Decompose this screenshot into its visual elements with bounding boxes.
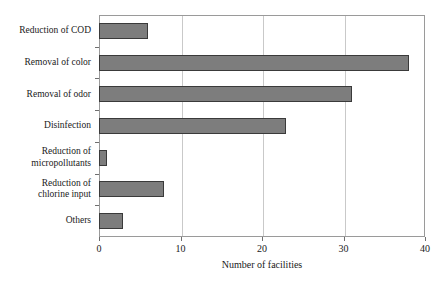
y-axis-category-labels: Reduction of CODRemoval of colorRemoval …	[0, 15, 95, 237]
y-axis-label: Removal of odor	[0, 89, 91, 101]
bars-layer	[99, 15, 425, 237]
x-tick-label-40: 40	[405, 243, 445, 255]
bar-row	[99, 47, 425, 79]
bar	[99, 118, 286, 134]
bar	[99, 55, 409, 71]
bar-row	[99, 15, 425, 47]
x-tick-label-20: 20	[242, 243, 282, 255]
y-axis-label: Disinfection	[0, 120, 91, 132]
bar-row	[99, 174, 425, 206]
bar-row	[99, 110, 425, 142]
bar	[99, 150, 107, 166]
x-tick-0	[99, 237, 100, 241]
y-tick	[95, 205, 99, 206]
bar-row	[99, 142, 425, 174]
x-axis-title: Number of facilities	[99, 259, 425, 270]
bar	[99, 23, 148, 39]
y-axis-label: Reduction of COD	[0, 25, 91, 37]
bar-chart: Reduction of CODRemoval of colorRemoval …	[0, 0, 445, 284]
x-tick-30	[344, 237, 345, 241]
x-tick-label-10: 10	[161, 243, 201, 255]
y-tick	[95, 110, 99, 111]
y-tick	[95, 78, 99, 79]
y-axis-label: Reduction of chlorine input	[0, 178, 91, 201]
bar-row	[99, 78, 425, 110]
y-tick	[95, 174, 99, 175]
bar-row	[99, 205, 425, 237]
x-tick-label-0: 0	[79, 243, 119, 255]
x-tick-10	[181, 237, 182, 241]
bar	[99, 213, 123, 229]
bar	[99, 181, 164, 197]
y-tick	[95, 47, 99, 48]
bar	[99, 86, 352, 102]
x-tick-label-30: 30	[324, 243, 364, 255]
y-axis-label: Reduction of micropollutants	[0, 146, 91, 169]
y-axis-label: Others	[0, 215, 91, 227]
y-axis-label: Removal of color	[0, 57, 91, 69]
x-tick-40	[425, 237, 426, 241]
x-tick-20	[262, 237, 263, 241]
y-tick	[95, 142, 99, 143]
